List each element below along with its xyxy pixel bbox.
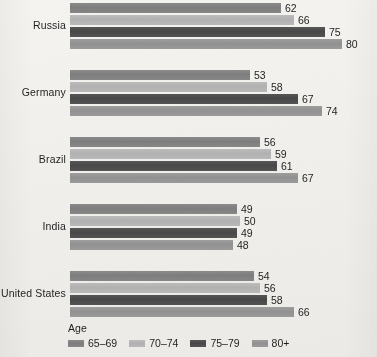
- bar-value-label: 74: [326, 105, 338, 117]
- bar-row: 62: [70, 3, 281, 13]
- bar-row: 49: [70, 204, 237, 214]
- bar-row: 53: [70, 70, 250, 80]
- bar-row: 50: [70, 216, 240, 226]
- bar-brazil-70–74: [70, 149, 271, 159]
- bar-group: India49504948: [0, 204, 377, 250]
- bar-germany-70–74: [70, 82, 267, 92]
- bar-row: 75: [70, 27, 325, 37]
- legend-swatch-icon: [68, 340, 84, 347]
- bar-germany-80+: [70, 106, 322, 116]
- bar-value-label: 50: [244, 215, 256, 227]
- bar-row: 74: [70, 106, 322, 116]
- bar-chart: Russia62667580Germany53586774Brazil56596…: [0, 0, 377, 357]
- bar-india-75–79: [70, 228, 237, 238]
- bar-india-65–69: [70, 204, 237, 214]
- bar-value-label: 49: [241, 227, 253, 239]
- legend-label: 65–69: [88, 337, 117, 349]
- bar-group: Russia62667580: [0, 3, 377, 49]
- bar-group: Germany53586774: [0, 70, 377, 116]
- bar-row: 80: [70, 39, 342, 49]
- bar-row: 49: [70, 228, 237, 238]
- bar-row: 59: [70, 149, 271, 159]
- bar-germany-65–69: [70, 70, 250, 80]
- bar-value-label: 67: [302, 93, 314, 105]
- bar-value-label: 53: [254, 69, 266, 81]
- bar-india-80+: [70, 240, 233, 250]
- bar-united-states-65–69: [70, 271, 254, 281]
- bar-value-label: 48: [237, 239, 249, 251]
- bar-value-label: 58: [271, 81, 283, 93]
- bar-row: 54: [70, 271, 254, 281]
- bar-united-states-80+: [70, 307, 294, 317]
- bar-row: 48: [70, 240, 233, 250]
- bar-value-label: 54: [258, 270, 270, 282]
- category-label-united-states: United States: [0, 288, 66, 299]
- bar-row: 66: [70, 307, 294, 317]
- bar-row: 67: [70, 173, 298, 183]
- bar-value-label: 62: [285, 2, 297, 14]
- bar-row: 66: [70, 15, 294, 25]
- bar-russia-80+: [70, 39, 342, 49]
- legend-item-75–79: 75–79: [190, 337, 239, 349]
- bar-value-label: 66: [298, 306, 310, 318]
- plot-area: Russia62667580Germany53586774Brazil56596…: [0, 0, 377, 318]
- bar-row: 67: [70, 94, 298, 104]
- bar-united-states-70–74: [70, 283, 260, 293]
- bar-value-label: 56: [264, 136, 276, 148]
- bar-germany-75–79: [70, 94, 298, 104]
- bar-value-label: 58: [271, 294, 283, 306]
- bar-brazil-65–69: [70, 137, 260, 147]
- bar-value-label: 56: [264, 282, 276, 294]
- bar-value-label: 66: [298, 14, 310, 26]
- legend-item-65–69: 65–69: [68, 337, 117, 349]
- bar-russia-65–69: [70, 3, 281, 13]
- bar-row: 58: [70, 82, 267, 92]
- legend-swatch-icon: [129, 340, 145, 347]
- legend-title: Age: [68, 322, 368, 334]
- legend-item-80+: 80+: [252, 337, 290, 349]
- legend-label: 80+: [272, 337, 290, 349]
- legend-swatch-icon: [190, 340, 206, 347]
- bar-row: 56: [70, 283, 260, 293]
- bar-united-states-75–79: [70, 295, 267, 305]
- bar-group: Brazil56596167: [0, 137, 377, 183]
- bar-row: 61: [70, 161, 277, 171]
- bar-group: United States54565866: [0, 271, 377, 317]
- legend-item-70–74: 70–74: [129, 337, 178, 349]
- chart-legend: Age 65–6970–7475–7980+: [68, 322, 368, 349]
- legend-label: 70–74: [149, 337, 178, 349]
- bar-brazil-75–79: [70, 161, 277, 171]
- bar-value-label: 59: [275, 148, 287, 160]
- category-label-russia: Russia: [0, 20, 66, 31]
- bar-value-label: 80: [346, 38, 358, 50]
- bar-brazil-80+: [70, 173, 298, 183]
- legend-swatch-icon: [252, 340, 268, 347]
- category-label-india: India: [0, 221, 66, 232]
- bar-value-label: 67: [302, 172, 314, 184]
- bar-value-label: 49: [241, 203, 253, 215]
- bar-value-label: 61: [281, 160, 293, 172]
- bar-row: 58: [70, 295, 267, 305]
- category-label-germany: Germany: [0, 87, 66, 98]
- category-label-brazil: Brazil: [0, 154, 66, 165]
- bar-row: 56: [70, 137, 260, 147]
- legend-label: 75–79: [210, 337, 239, 349]
- bar-value-label: 75: [329, 26, 341, 38]
- legend-items: 65–6970–7475–7980+: [68, 337, 368, 349]
- bar-russia-70–74: [70, 15, 294, 25]
- bar-india-70–74: [70, 216, 240, 226]
- bar-russia-75–79: [70, 27, 325, 37]
